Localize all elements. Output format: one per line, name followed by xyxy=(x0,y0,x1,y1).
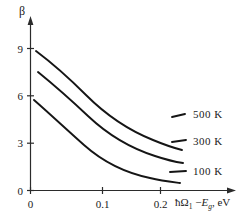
x-tick-label-0p1: 0.1 xyxy=(96,198,110,210)
y-tick-label-0: 0 xyxy=(18,185,24,197)
x-axis-title-hbar-omega: ħΩ xyxy=(175,196,189,208)
legend-label-100k: 100 K xyxy=(193,165,223,177)
y-axis-title: β xyxy=(19,4,25,18)
y-tick-label-3: 3 xyxy=(18,137,24,149)
y-tick-label-6: 6 xyxy=(18,90,24,102)
legend-label-500k: 500 K xyxy=(193,108,223,120)
x-tick-label-0: 0 xyxy=(28,198,34,210)
x-tick-label-0p2: 0.2 xyxy=(154,198,168,210)
y-tick-label-9: 9 xyxy=(18,43,24,55)
x-axis-title-units: , eV xyxy=(212,196,230,208)
legend-label-300k: 300 K xyxy=(193,135,223,147)
line-chart: 0 3 6 9 0 0.1 0.2 β ħΩ1 −Eg, eV 500 K xyxy=(0,0,241,221)
legend-leader-100k xyxy=(170,171,186,172)
chart-figure: 0 3 6 9 0 0.1 0.2 β ħΩ1 −Eg, eV 500 K xyxy=(0,0,241,221)
